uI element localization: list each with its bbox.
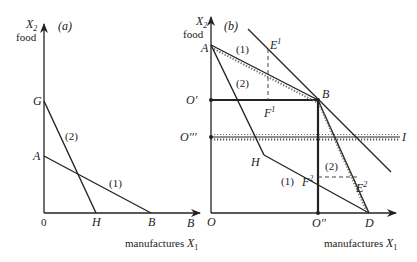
panel-b-point-i: I <box>401 130 407 144</box>
line-1-top-hatch <box>214 49 316 102</box>
panel-b-point-f1: F1 <box>263 105 275 120</box>
panel-a-y-axis-word: food <box>16 31 37 43</box>
line-1-top <box>211 45 318 100</box>
panel-b-line-1-bottom-label: (1) <box>281 175 294 188</box>
panel-b-point-e1: E1 <box>269 37 281 52</box>
panel-b-y-axis-word: food <box>183 28 204 40</box>
panel-a-point-a: A <box>32 149 41 163</box>
panel-a-line-2-label: (2) <box>65 130 78 143</box>
panel-a-axis-end-label: B <box>187 216 195 230</box>
dot-o-double-prime <box>316 211 320 215</box>
line-1-bottom <box>264 155 369 213</box>
panel-b-point-e2: E2 <box>355 180 367 195</box>
panel-b-x-axis-label: manufactures X1 <box>324 236 397 252</box>
panel-a-x-axis-label: manufactures X1 <box>125 236 198 252</box>
panel-a: X2 food (a) G A (2) (1) 0 H B B manufact… <box>16 17 200 252</box>
panel-a-line-1-label: (1) <box>109 177 122 190</box>
panel-a-origin: 0 <box>41 216 47 228</box>
dot-b <box>316 98 320 102</box>
panel-b-point-o-double-prime: O′′ <box>312 216 326 230</box>
dot-o-prime <box>209 98 213 102</box>
panel-b-tag: (b) <box>224 19 238 33</box>
panel-b-point-h: H <box>250 155 261 169</box>
panel-b: X2 food (b) A (1) (2) E1 B O′ F1 O′′′ I … <box>180 14 407 252</box>
panel-a-tag: (a) <box>58 19 72 33</box>
panel-b-line-2-bottom-label: (2) <box>325 160 338 173</box>
panel-a-line-1 <box>44 156 151 213</box>
panel-b-point-d: D <box>364 216 374 230</box>
panel-a-line-2 <box>44 101 96 213</box>
panel-b-point-a: A <box>200 41 209 55</box>
panel-b-point-o: O <box>207 215 216 229</box>
panel-b-line-2-top-label: (2) <box>236 77 249 90</box>
dot-o-triple-prime <box>209 135 213 139</box>
panel-b-line-1-top-label: (1) <box>236 43 249 56</box>
panel-a-point-b: B <box>148 215 156 229</box>
panel-b-point-o-triple-prime: O′′′ <box>180 130 197 144</box>
trade-diagram: X2 food (a) G A (2) (1) 0 H B B manufact… <box>0 0 417 262</box>
panel-b-point-o-prime: O′ <box>186 93 198 107</box>
panel-a-point-g: G <box>33 94 42 108</box>
panel-a-point-h: H <box>91 215 102 229</box>
panel-b-point-f2: F2 <box>301 174 313 189</box>
panel-b-point-b: B <box>322 87 330 101</box>
